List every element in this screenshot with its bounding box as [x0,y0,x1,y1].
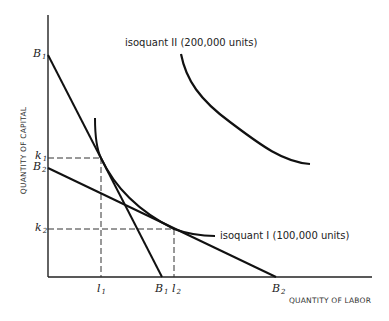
y-tick-b1: B1 [33,47,47,61]
x-tick-b2: B2 [272,282,286,296]
chart-canvas [0,0,389,321]
isoquant-1-label: isoquant I (100,000 units) [220,230,349,241]
x-axis-title: QUANTITY OF LABOR [289,296,371,305]
x-tick-l2: l2 [172,282,181,296]
y-tick-b2: B2 [33,160,47,174]
isoquant-2-label: isoquant II (200,000 units) [125,37,257,48]
isoquant-1-curve [95,118,215,236]
x-tick-l1: l1 [97,282,106,296]
x-tick-b1: B1 [155,282,169,296]
y-axis-title: QUANTITY OF CAPITAL [19,101,28,201]
isoquant-2-curve [181,54,310,164]
y-tick-k2: k2 [35,221,47,235]
